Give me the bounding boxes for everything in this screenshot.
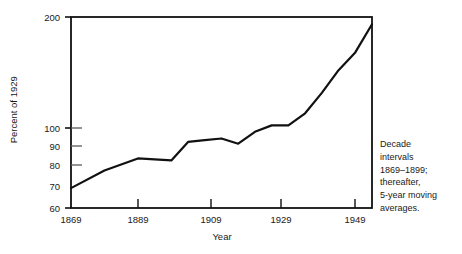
y-tick-label-100: 100 bbox=[22, 124, 60, 134]
y-tick-label-70: 70 bbox=[22, 182, 60, 192]
x-axis-title: Year bbox=[71, 232, 373, 242]
x-tick-label-1869: 1869 bbox=[48, 215, 94, 225]
y-tick-label-200: 200 bbox=[22, 13, 60, 23]
annotation-line-3: 1869–1899; bbox=[380, 164, 462, 177]
x-tick-label-1909: 1909 bbox=[188, 215, 234, 225]
annotation-line-6: averages. bbox=[380, 202, 462, 215]
chart-annotation: Decade intervals 1869–1899; thereafter, … bbox=[380, 138, 462, 215]
chart-figure: 200 100 90 80 70 60 1869 1889 1909 1929 … bbox=[0, 0, 462, 254]
x-tick-label-1949: 1949 bbox=[332, 215, 378, 225]
x-tick-label-1889: 1889 bbox=[115, 215, 161, 225]
y-tick-label-60: 60 bbox=[22, 204, 60, 214]
plot-frame bbox=[71, 17, 372, 208]
annotation-line-4: thereafter, bbox=[380, 176, 462, 189]
annotation-line-5: 5-year moving bbox=[380, 189, 462, 202]
annotation-line-2: intervals bbox=[380, 151, 462, 164]
annotation-line-1: Decade bbox=[380, 138, 462, 151]
y-axis-title: Percent of 1929 bbox=[9, 55, 19, 165]
y-tick-label-80: 80 bbox=[22, 161, 60, 171]
x-tick-label-1929: 1929 bbox=[258, 215, 304, 225]
y-tick-label-90: 90 bbox=[22, 142, 60, 152]
